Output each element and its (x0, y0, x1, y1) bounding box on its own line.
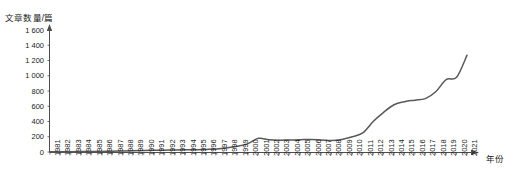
y-axis-tick-label: 1 600 (14, 26, 44, 35)
x-axis-tick-label: 2005 (303, 139, 312, 156)
data-series-line (50, 55, 467, 152)
x-axis-tick-label: 2014 (397, 139, 406, 156)
x-axis-tick-label: 1981 (53, 139, 62, 156)
y-axis-tick-label: 200 (14, 132, 44, 141)
y-axis-tick-label: 0 (14, 148, 44, 157)
x-axis-tick-label: 2015 (407, 139, 416, 156)
y-axis-tick-label: 800 (14, 87, 44, 96)
y-axis-tick-label: 1 400 (14, 41, 44, 50)
x-axis-tick-label: 1996 (209, 139, 218, 156)
x-axis-tick-label: 2006 (314, 139, 323, 156)
x-axis-tick-label: 2012 (376, 139, 385, 156)
x-axis-tick-label: 2021 (470, 139, 479, 156)
x-axis-tick-label: 1987 (116, 139, 125, 156)
x-axis-tick-label: 1997 (220, 139, 229, 156)
x-axis-tick-label: 2004 (293, 139, 302, 156)
x-axis-tick-label: 1994 (189, 139, 198, 156)
x-axis-tick-label: 2003 (282, 139, 291, 156)
x-axis-tick-label: 2001 (262, 139, 271, 156)
chart-container: 文章数量/篇 年份 02004006008001 0001 2001 4001 … (0, 0, 513, 195)
x-axis-tick-label: 2013 (387, 139, 396, 156)
x-axis-tick-label: 1988 (126, 139, 135, 156)
axis-lines (47, 24, 479, 155)
x-axis-tick-label: 1998 (230, 139, 239, 156)
x-axis-tick-label: 2010 (355, 139, 364, 156)
x-axis-tick-label: 1990 (147, 139, 156, 156)
x-axis-tick-label: 2018 (439, 139, 448, 156)
y-axis-tick-label: 1 200 (14, 56, 44, 65)
x-axis-tick-label: 2011 (366, 140, 375, 156)
x-axis-tick-label: 2002 (272, 139, 281, 156)
y-axis-tick-label: 600 (14, 102, 44, 111)
x-axis-tick-label: 2020 (460, 139, 469, 156)
x-axis-tick-label: 2000 (251, 139, 260, 156)
x-axis-tick-label: 2007 (324, 139, 333, 156)
x-axis-tick-label: 1993 (178, 139, 187, 156)
x-axis-tick-label: 1982 (63, 139, 72, 156)
x-axis-tick-label: 2017 (428, 139, 437, 156)
y-axis-tick-label: 1 000 (14, 71, 44, 80)
x-axis-tick-label: 1984 (84, 139, 93, 156)
x-axis-tick-label: 1999 (241, 139, 250, 156)
x-axis-tick-label: 1992 (168, 139, 177, 156)
x-axis-tick-label: 1995 (199, 139, 208, 156)
x-axis-tick-label: 2016 (418, 139, 427, 156)
x-axis-tick-label: 1983 (74, 139, 83, 156)
x-axis-tick-label: 1991 (157, 139, 166, 156)
x-axis-tick-label: 1985 (95, 139, 104, 156)
x-axis-tick-label: 2019 (449, 139, 458, 156)
x-axis-tick-label: 2008 (334, 139, 343, 156)
line-chart-plot (0, 0, 513, 195)
y-axis-tick-label: 400 (14, 117, 44, 126)
x-axis-tick-label: 2009 (345, 139, 354, 156)
x-axis-tick-label: 1989 (136, 139, 145, 156)
x-axis-tick-label: 1986 (105, 139, 114, 156)
